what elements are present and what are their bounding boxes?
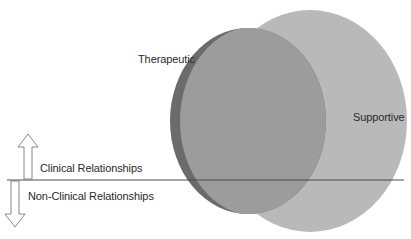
therapeutic-label: Therapeutic (138, 54, 195, 65)
arrow-down-icon (5, 181, 25, 227)
venn-diagram-svg (0, 0, 411, 239)
clinical-relationships-label: Clinical Relationships (40, 163, 142, 174)
arrow-up-icon (18, 134, 38, 179)
non-clinical-relationships-label: Non-Clinical Relationships (28, 191, 154, 202)
diagram-canvas: Therapeutic Supportive Clinical Relation… (0, 0, 411, 239)
supportive-label: Supportive (353, 112, 405, 123)
